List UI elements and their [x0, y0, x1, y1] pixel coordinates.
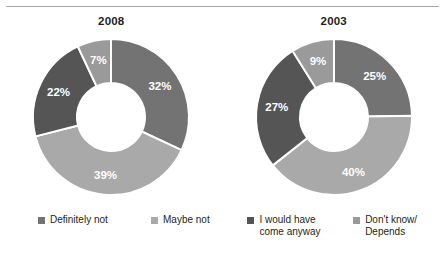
top-divider-rule: [6, 6, 439, 7]
legend-label-dont-know-depends: Don't know/ Depends: [365, 214, 417, 238]
legend-swatch-icon-would-have-come-anyway: [247, 217, 254, 224]
donut-slice-label: 7%: [90, 54, 107, 66]
legend-item-would-have-come-anyway[interactable]: I would have come anyway: [247, 214, 353, 258]
legend-item-maybe-not[interactable]: Maybe not: [151, 214, 247, 258]
legend-item-definitely-not[interactable]: Definitely not: [38, 214, 151, 258]
chart-title-2003: 2003: [321, 14, 347, 29]
donut-slice-label: 27%: [265, 101, 288, 113]
legend-label-definitely-not: Definitely not: [50, 214, 108, 226]
donut-chart-block-2003: 2003 25%40%27%9%: [234, 14, 434, 203]
legend-label-would-have-come-anyway: I would have come anyway: [259, 214, 320, 238]
donut-slice-label: 32%: [149, 80, 172, 92]
donut-chart-2003: 25%40%27%9%: [248, 31, 420, 203]
donut-chart-block-2008: 2008 32%39%22%7%: [11, 14, 211, 203]
charts-row: 2008 32%39%22%7% 2003 25%40%27%9%: [0, 14, 445, 210]
donut-slice-label: 22%: [47, 86, 70, 98]
legend-swatch-icon-maybe-not: [151, 217, 158, 224]
legend-swatch-icon-dont-know-depends: [353, 217, 360, 224]
figure-container: 2008 32%39%22%7% 2003 25%40%27%9% Defini…: [0, 0, 445, 264]
donut-slice[interactable]: [111, 39, 189, 150]
donut-slice-label: 25%: [363, 70, 386, 82]
legend-swatch-icon-definitely-not: [38, 217, 45, 224]
legend-item-dont-know-depends[interactable]: Don't know/ Depends: [353, 214, 445, 258]
donut-chart-2008: 32%39%22%7%: [25, 31, 197, 203]
donut-slice-label: 39%: [94, 169, 117, 181]
chart-title-2008: 2008: [98, 14, 124, 29]
legend: Definitely not Maybe not I would have co…: [0, 214, 445, 258]
donut-slice-label: 40%: [342, 166, 365, 178]
donut-slice-label: 9%: [309, 55, 326, 67]
legend-label-maybe-not: Maybe not: [163, 214, 210, 226]
